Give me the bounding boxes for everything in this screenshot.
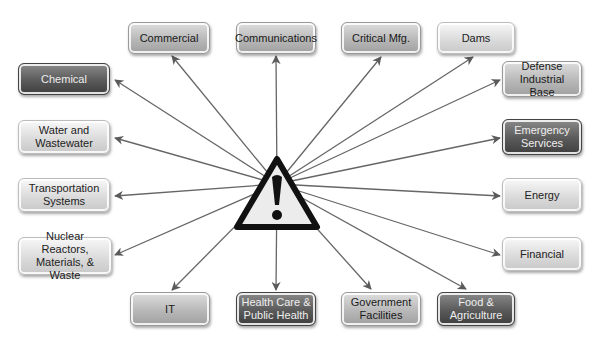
sector-box-communications: Communications bbox=[236, 22, 316, 54]
sector-label: Energy bbox=[525, 189, 560, 202]
sector-box-it: IT bbox=[130, 292, 210, 326]
sector-box-food-agriculture: Food & Agriculture bbox=[437, 292, 515, 326]
sector-box-chemical: Chemical bbox=[18, 63, 110, 95]
sector-label: Emergency Services bbox=[507, 124, 577, 150]
sector-box-nuclear: Nuclear Reactors, Materials, & Waste bbox=[18, 237, 112, 275]
sector-box-transportation: Transportation Systems bbox=[18, 178, 110, 212]
sector-label: Chemical bbox=[41, 73, 87, 86]
sector-label: Dams bbox=[462, 32, 491, 45]
sector-box-financial: Financial bbox=[502, 237, 582, 271]
sector-box-dams: Dams bbox=[437, 22, 515, 54]
sector-label: Nuclear Reactors, Materials, & Waste bbox=[23, 230, 107, 282]
sector-label: Transportation Systems bbox=[23, 182, 105, 208]
sector-box-government-facilities: Government Facilities bbox=[341, 292, 421, 326]
sector-box-defense-industrial-base: Defense Industrial Base bbox=[502, 61, 582, 97]
sector-box-commercial: Commercial bbox=[128, 22, 210, 54]
sector-box-health-care: Health Care & Public Health bbox=[236, 292, 316, 326]
sector-label: Food & Agriculture bbox=[442, 296, 510, 322]
sector-label: Critical Mfg. bbox=[352, 32, 410, 45]
sector-label: Communications bbox=[235, 32, 317, 45]
sector-label: Commercial bbox=[140, 32, 199, 45]
warning-triangle-icon bbox=[233, 155, 321, 231]
sector-box-critical-mfg: Critical Mfg. bbox=[341, 22, 421, 54]
sector-label: Government Facilities bbox=[346, 296, 416, 322]
sector-label: IT bbox=[165, 303, 175, 316]
sector-box-water-wastewater: Water and Wastewater bbox=[18, 120, 110, 154]
sector-label: Financial bbox=[520, 248, 564, 261]
sector-label: Health Care & Public Health bbox=[241, 296, 311, 322]
sector-box-energy: Energy bbox=[502, 178, 582, 212]
sector-label: Defense Industrial Base bbox=[507, 60, 577, 99]
sector-label: Water and Wastewater bbox=[23, 124, 105, 150]
sector-box-emergency-services: Emergency Services bbox=[502, 119, 582, 155]
